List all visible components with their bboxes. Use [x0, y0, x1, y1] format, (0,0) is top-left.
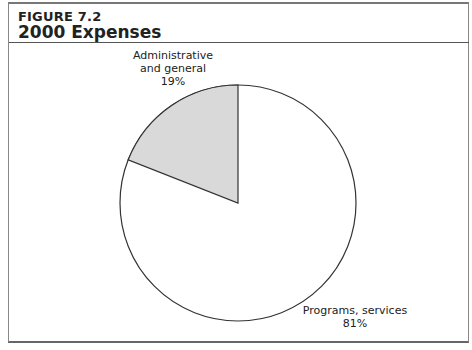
label-admin-line1: Administrative	[128, 49, 218, 62]
label-programs-pct: 81%	[300, 317, 410, 330]
label-administrative: Administrative and general 19%	[128, 49, 218, 88]
label-programs-line1: Programs, services	[300, 304, 410, 317]
label-programs: Programs, services 81%	[300, 304, 410, 330]
pie-chart	[0, 0, 472, 350]
label-admin-pct: 19%	[128, 75, 218, 88]
label-admin-line2: and general	[128, 62, 218, 75]
